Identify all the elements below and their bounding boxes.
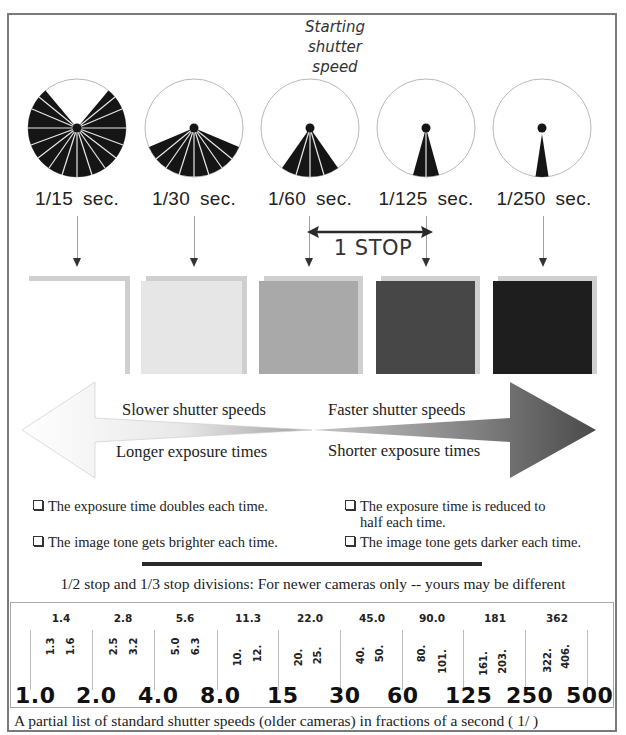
scale-tick [92, 630, 93, 690]
third-stop-value: 5.0 [170, 630, 181, 664]
shutter-icon-1-125 [377, 79, 475, 177]
third-stop-value: 2.5 [108, 630, 119, 664]
scale-caption: A partial list of standard shutter speed… [14, 712, 538, 730]
bullet-text: The exposure time doubles each time. [48, 498, 268, 514]
third-stop-value: 101. [437, 645, 448, 679]
third-stop-value: 322. [542, 644, 553, 678]
tone-swatch-white [24, 281, 125, 374]
full-stop-value: 30 [329, 683, 361, 708]
bullet-text: The image tone gets darker each time. [360, 534, 581, 550]
scale-tick [525, 630, 526, 690]
bullet-item: The image tone gets darker each time. [345, 534, 581, 550]
tone-swatch-dark-gray [376, 281, 475, 374]
third-stop-value: 10. [232, 641, 243, 675]
scale-tick [340, 630, 341, 690]
bullet-item: The exposure time is reduced tohalf each… [345, 498, 546, 530]
third-stop-value: 40. [355, 639, 366, 673]
bullet-text: The image tone gets brighter each time. [48, 534, 278, 550]
full-stop-value: 1.0 [15, 683, 55, 708]
tone-swatch-light-gray [141, 281, 242, 374]
full-stop-value: 4.0 [138, 683, 178, 708]
speed-direction-arrow [0, 375, 626, 485]
arrow-down-icon [539, 258, 547, 267]
faster-speeds-label: Faster shutter speeds [328, 400, 465, 420]
arrow-down-icon [73, 258, 81, 267]
speed-value: 1/60 [268, 188, 306, 209]
full-stop-value: 250 [506, 683, 553, 708]
connector-line [194, 216, 195, 258]
third-stop-value: 50. [374, 637, 385, 671]
shutter-icon-1-30 [145, 79, 243, 177]
slower-speeds-label: Slower shutter speeds [122, 400, 266, 420]
speed-label-1-125: 1/125sec. [366, 188, 486, 210]
shutter-icon-1-250 [493, 79, 591, 177]
third-stop-value: 161. [478, 647, 489, 681]
speed-value: 1/250 [496, 188, 545, 209]
third-stop-value: 20. [293, 641, 304, 675]
half-stop-value: 1.4 [36, 612, 86, 624]
speed-unit: sec. [200, 188, 236, 209]
scale-tick [463, 630, 464, 690]
one-stop-label: 1 STOP [318, 236, 428, 260]
half-stop-value: 45.0 [347, 612, 397, 624]
half-stop-value: 5.6 [160, 612, 210, 624]
shutter-diagrams [0, 0, 626, 290]
third-stop-value: 6.3 [190, 630, 201, 664]
speed-label-1-30: 1/30sec. [134, 188, 254, 210]
speed-label-1-250: 1/250sec. [484, 188, 604, 210]
section-divider [142, 562, 482, 566]
arrow-down-icon [305, 258, 313, 267]
full-stop-value: 60 [387, 683, 419, 708]
speed-unit: sec. [556, 188, 592, 209]
third-stop-value: 203. [497, 645, 508, 679]
scale-tick [154, 630, 155, 690]
right-arrow-shape [312, 382, 596, 478]
scale-tick [30, 630, 31, 690]
longer-exposure-label: Longer exposure times [116, 442, 267, 462]
third-stop-value: 1.3 [45, 630, 56, 664]
speed-unit: sec. [438, 188, 474, 209]
full-stop-value: 125 [445, 683, 492, 708]
tone-swatch-near-black [493, 281, 592, 374]
connector-line [543, 216, 544, 258]
shorter-exposure-label: Shorter exposure times [328, 441, 480, 461]
third-stop-value: 406. [560, 640, 571, 674]
checkbox-bullet-icon [33, 500, 43, 510]
scale-tick [587, 630, 588, 690]
full-stop-value: 2.0 [76, 683, 116, 708]
shutter-icon-1-15 [28, 79, 126, 177]
half-stop-value: 11.3 [223, 612, 273, 624]
connector-line [77, 216, 78, 258]
checkbox-bullet-icon [345, 536, 355, 546]
scale-tick [278, 630, 279, 690]
shutter-icon-1-60 [261, 79, 359, 177]
scale-tick [402, 630, 403, 690]
full-stop-value: 15 [267, 683, 299, 708]
checkbox-bullet-icon [33, 536, 43, 546]
half-stop-value: 2.8 [98, 612, 148, 624]
third-stop-value: 80. [416, 637, 427, 671]
half-stop-value: 181 [470, 612, 520, 624]
arrow-down-icon [190, 258, 198, 267]
bullet-text: The exposure time is reduced to [360, 498, 546, 514]
speed-value: 1/15 [35, 188, 73, 209]
checkbox-bullet-icon [345, 500, 355, 510]
bullet-item: The image tone gets brighter each time. [33, 534, 278, 550]
left-arrow-shape [22, 382, 312, 478]
third-stop-value: 3.2 [128, 630, 139, 664]
bullet-item: The exposure time doubles each time. [33, 498, 268, 514]
speed-unit: sec. [83, 188, 119, 209]
third-stop-value: 1.6 [65, 630, 76, 664]
speed-unit: sec. [316, 188, 352, 209]
bullet-text: half each time. [345, 514, 446, 530]
speed-value: 1/30 [152, 188, 190, 209]
scale-title: 1/2 stop and 1/3 stop divisions: For new… [0, 575, 626, 593]
speed-label-1-60: 1/60sec. [250, 188, 370, 210]
half-stop-value: 362 [532, 612, 582, 624]
scale-tick [217, 630, 218, 690]
speed-value: 1/125 [378, 188, 427, 209]
half-stop-value: 90.0 [407, 612, 457, 624]
tone-swatch-mid-gray [259, 281, 358, 374]
full-stop-value: 8.0 [200, 683, 240, 708]
half-stop-value: 22.0 [285, 612, 335, 624]
